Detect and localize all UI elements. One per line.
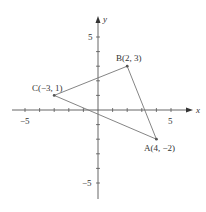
x-tick-label-5: 5 (168, 116, 173, 126)
y-tick-label-5: 5 (88, 32, 93, 42)
x-axis-label: x (195, 105, 200, 115)
point-c (53, 94, 56, 97)
point-c-label: C(−3, 1) (32, 83, 63, 93)
y-tick-label-neg5: −5 (82, 178, 92, 188)
y-axis-arrow-icon (96, 16, 101, 23)
x-tick-label-neg5: −5 (20, 116, 30, 126)
point-a (155, 138, 158, 141)
triangle-abc (54, 66, 156, 139)
point-a-label: A(4, −2) (144, 143, 175, 153)
point-b-label: B(2, 3) (116, 53, 142, 63)
point-b (126, 65, 129, 68)
y-axis-label: y (102, 14, 107, 24)
coordinate-plane: x y −5 5 5 −5 A(4, −2) B(2, 3) C(−3, 1) (0, 0, 206, 212)
x-axis-arrow-icon (186, 108, 193, 113)
